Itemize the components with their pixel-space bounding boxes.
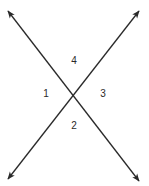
- angle-label-2: 2: [71, 121, 77, 131]
- lines-canvas: [0, 0, 149, 186]
- angle-label-4: 4: [71, 56, 77, 66]
- angle-label-1: 1: [43, 89, 49, 99]
- intersecting-lines-diagram: 1 2 3 4: [0, 0, 149, 186]
- angle-label-3: 3: [100, 89, 106, 99]
